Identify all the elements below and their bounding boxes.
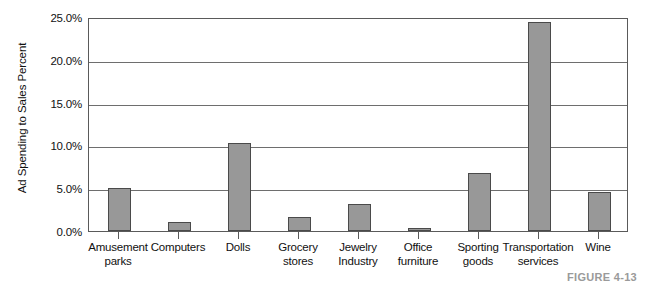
x-axis-category-label-line: Wine	[560, 241, 636, 255]
x-axis-tick-mark	[118, 232, 119, 239]
x-axis-tick-mark	[298, 232, 299, 239]
y-axis-tick-label: 15.0%	[26, 98, 82, 110]
y-axis-tick-label: 10.0%	[26, 140, 82, 152]
bar	[288, 217, 311, 231]
x-axis-tick-mark	[538, 232, 539, 239]
bar	[408, 228, 431, 231]
bar	[168, 222, 191, 231]
bar	[348, 204, 371, 231]
x-axis-tick-mark	[598, 232, 599, 239]
figure-caption: FIGURE 4-13	[567, 271, 637, 282]
bar	[468, 173, 491, 231]
y-axis-tick-label: 5.0%	[26, 183, 82, 195]
y-axis-tick-labels: 0.0%5.0%10.0%15.0%20.0%25.0%	[26, 0, 82, 282]
bar-series	[89, 19, 627, 231]
bar	[108, 188, 131, 231]
plot-area	[88, 18, 628, 232]
x-axis-tick-mark	[178, 232, 179, 239]
x-axis-tick-mark	[418, 232, 419, 239]
x-axis-tick-mark	[478, 232, 479, 239]
bar-chart-figure: Ad Spending to Sales Percent 0.0%5.0%10.…	[0, 0, 645, 282]
x-axis-tick-mark	[358, 232, 359, 239]
bar	[528, 22, 551, 231]
x-axis-category-label-line: parks	[80, 255, 156, 269]
y-axis-tick-label: 25.0%	[26, 12, 82, 24]
x-axis-tick-mark	[238, 232, 239, 239]
y-axis-tick-label: 0.0%	[26, 226, 82, 238]
bar	[228, 143, 251, 231]
x-axis-category-label: Wine	[560, 241, 636, 255]
x-axis-category-label-line: services	[500, 255, 576, 269]
y-axis-tick-label: 20.0%	[26, 55, 82, 67]
bar	[588, 192, 611, 231]
